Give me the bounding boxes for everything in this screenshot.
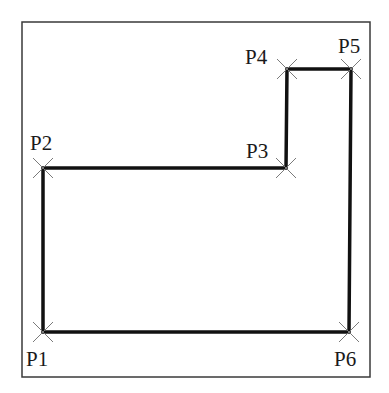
point-markers xyxy=(33,59,361,342)
point-label-p2: P2 xyxy=(30,131,52,155)
point-label-p3: P3 xyxy=(246,139,268,163)
point-label-p1: P1 xyxy=(26,347,48,371)
point-labels: P1P2P3P4P5P6 xyxy=(26,34,360,371)
point-label-p6: P6 xyxy=(334,347,356,371)
point-label-p4: P4 xyxy=(245,45,268,69)
shape-outline xyxy=(43,69,351,332)
point-label-p5: P5 xyxy=(338,34,360,58)
diagram-frame xyxy=(22,22,370,377)
diagram-canvas: P1P2P3P4P5P6 xyxy=(0,0,389,393)
